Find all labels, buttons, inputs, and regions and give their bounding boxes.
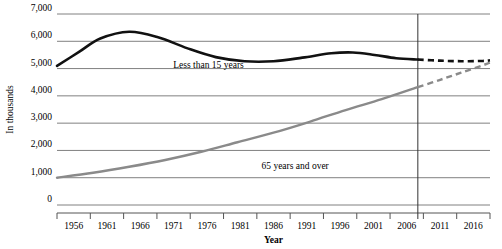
series-line-actual-1 <box>57 87 418 178</box>
series-line-projected-0 <box>418 60 490 62</box>
x-axis-tick-label: 1961 <box>97 221 116 231</box>
y-axis-title: In thousands <box>5 85 15 134</box>
x-axis-tick-label: 1971 <box>164 221 183 231</box>
x-axis-tick-label: 1981 <box>231 221 250 231</box>
x-axis-tick-label: 2006 <box>397 221 416 231</box>
series-annotation-0: Less than 15 years <box>173 60 244 70</box>
y-axis-tick-label: 6,000 <box>31 30 53 40</box>
y-axis-tick-label: 4,000 <box>31 85 53 95</box>
y-axis-tick-label: 3,000 <box>31 112 53 122</box>
x-axis-tick-label: 2011 <box>431 221 450 231</box>
chart-container: 01,0002,0003,0004,0005,0006,0007,0001956… <box>0 0 502 249</box>
y-axis-tick-label: 7,000 <box>31 3 53 13</box>
y-axis-tick-label: 1,000 <box>31 167 53 177</box>
x-axis-title: Year <box>264 235 284 245</box>
line-chart: 01,0002,0003,0004,0005,0006,0007,0001956… <box>0 0 502 249</box>
x-axis-tick-label: 2001 <box>364 221 383 231</box>
x-axis-tick-label: 1991 <box>297 221 316 231</box>
x-axis-tick-label: 1966 <box>131 221 150 231</box>
y-axis-tick-label: 2,000 <box>31 139 53 149</box>
x-axis-tick-label: 1976 <box>197 221 216 231</box>
series-annotation-1: 65 years and over <box>262 161 330 171</box>
y-axis-tick-label: 0 <box>47 194 52 204</box>
series-line-projected-1 <box>418 63 490 88</box>
x-axis-tick-label: 1996 <box>331 221 350 231</box>
x-axis-tick-label: 1956 <box>64 221 83 231</box>
x-axis-tick-label: 1986 <box>264 221 283 231</box>
y-axis-tick-label: 5,000 <box>31 58 53 68</box>
x-axis-tick-label: 2016 <box>464 221 483 231</box>
